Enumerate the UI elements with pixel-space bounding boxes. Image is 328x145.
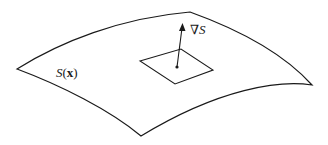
gradient-arrow-shaft (177, 28, 182, 67)
gradient-label: ∇S (190, 23, 206, 36)
gradient-var: S (199, 22, 206, 37)
surface-close-paren: ) (73, 65, 77, 80)
surface-diagram (0, 0, 328, 145)
surface-label: S(x) (56, 66, 78, 79)
nabla-symbol: ∇ (190, 22, 199, 37)
gradient-arrowhead-icon (179, 23, 186, 31)
